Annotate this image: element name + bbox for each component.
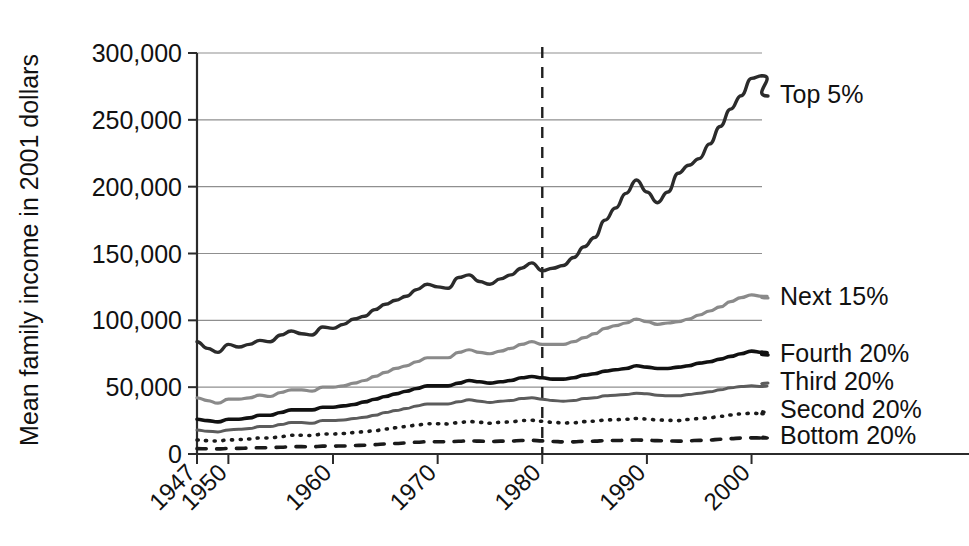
x-tick-label: 2000: [698, 458, 755, 515]
y-tick-label: 250,000: [92, 106, 182, 134]
series-line-fourth-20: [197, 351, 762, 422]
legend-leader-next-15: [762, 296, 768, 298]
y-axis-title: Mean family income in 2001 dollars: [15, 54, 43, 446]
legend-leader-bottom-20: [762, 437, 768, 438]
chart-canvas: 050,000100,000150,000200,000250,000300,0…: [0, 0, 969, 546]
series-line-bottom-20: [197, 438, 762, 449]
series-group: [197, 76, 768, 449]
series-line-second-20: [197, 413, 762, 441]
gridlines-group: [197, 53, 762, 387]
x-tick-label: 1980: [489, 458, 546, 515]
y-tick-label: 300,000: [92, 39, 182, 67]
legend-label-fourth-20: Fourth 20%: [780, 339, 909, 367]
y-tick-label: 200,000: [92, 173, 182, 201]
legend-label-third-20: Third 20%: [780, 367, 894, 395]
y-tick-labels-group: 050,000100,000150,000200,000250,000300,0…: [92, 39, 182, 468]
legend-leader-third-20: [762, 383, 768, 387]
legend-label-bottom-20: Bottom 20%: [780, 421, 916, 449]
y-tick-label: 100,000: [92, 306, 182, 334]
legend-leader-fourth-20: [762, 352, 768, 355]
y-tick-label: 150,000: [92, 240, 182, 268]
legend-label-second-20: Second 20%: [780, 395, 922, 423]
series-line-top-5: [197, 76, 762, 353]
x-tick-label: 1960: [280, 458, 337, 515]
x-tick-label: 1970: [384, 458, 441, 515]
income-distribution-chart: 050,000100,000150,000200,000250,000300,0…: [0, 0, 969, 546]
legend-label-top-5: Top 5%: [780, 80, 863, 108]
legend-leader-second-20: [762, 411, 768, 414]
legend-label-next-15: Next 15%: [780, 282, 888, 310]
x-tick-label: 1990: [594, 458, 651, 515]
legend-leader-top-5: [762, 76, 768, 96]
tickmarks-group: [188, 53, 752, 464]
x-tick-labels-group: 1947195019601970198019902000: [144, 458, 755, 515]
y-tick-label: 50,000: [106, 373, 182, 401]
legend-group: Top 5%Next 15%Fourth 20%Third 20%Second …: [780, 80, 922, 449]
